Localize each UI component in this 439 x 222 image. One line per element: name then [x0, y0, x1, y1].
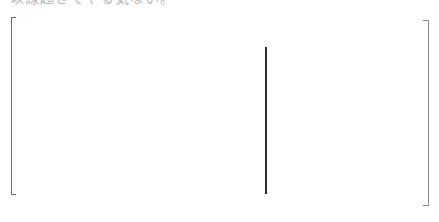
clipped-header-text: 以線起きてやる気ない。 [10, 0, 175, 5]
left-bracket [11, 17, 16, 195]
right-bracket [423, 20, 429, 206]
center-vertical-divider [265, 47, 267, 194]
